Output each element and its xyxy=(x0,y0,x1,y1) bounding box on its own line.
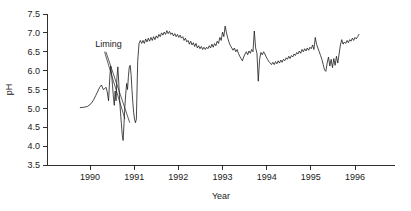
x-tick-label: 1991 xyxy=(124,172,144,182)
x-tick-label: 1996 xyxy=(345,172,365,182)
y-axis-title: pH xyxy=(4,84,14,96)
y-tick-label: 7.5 xyxy=(27,9,40,19)
y-tick-label: 6.0 xyxy=(27,66,40,76)
x-tick-label: 1990 xyxy=(80,172,100,182)
x-axis: 1990199119921993199419951996 xyxy=(47,165,395,182)
y-tick-label: 6.5 xyxy=(27,47,40,57)
y-tick-label: 5.5 xyxy=(27,85,40,95)
x-tick-label: 1993 xyxy=(212,172,232,182)
y-tick-label: 4.5 xyxy=(27,122,40,132)
series-line xyxy=(80,26,359,140)
y-tick-label: 4.0 xyxy=(27,141,40,151)
chart-canvas: 3.54.04.55.05.56.06.57.07.5 199019911992… xyxy=(0,0,411,211)
y-tick-label: 3.5 xyxy=(27,160,40,170)
y-tick-label: 5.0 xyxy=(27,104,40,114)
x-tick-label: 1994 xyxy=(257,172,277,182)
x-tick-label: 1992 xyxy=(168,172,188,182)
annotation-label-liming: Liming xyxy=(95,39,122,49)
ph-time-series-chart: 3.54.04.55.05.56.06.57.07.5 199019911992… xyxy=(0,0,411,211)
y-tick-label: 7.0 xyxy=(27,28,40,38)
y-axis: 3.54.04.55.05.56.06.57.07.5 xyxy=(27,9,47,170)
x-tick-label: 1995 xyxy=(301,172,321,182)
data-series-group xyxy=(80,26,359,140)
annotation-leader-line xyxy=(105,52,125,119)
x-axis-title: Year xyxy=(212,191,230,201)
